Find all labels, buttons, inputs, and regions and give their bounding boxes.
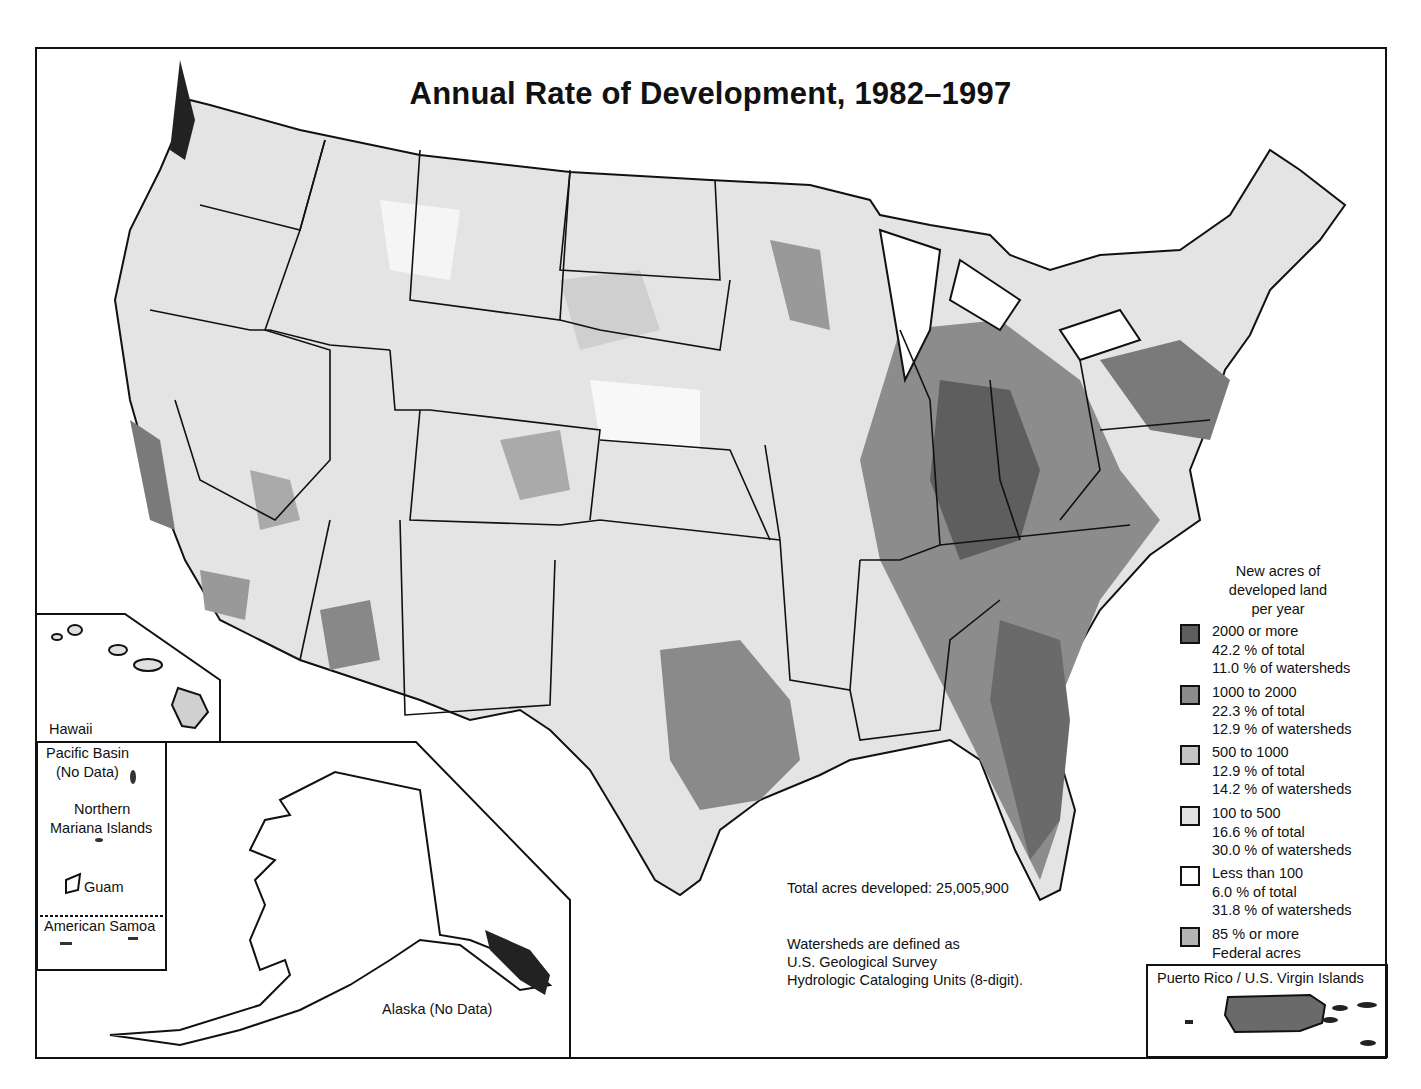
watersheds-note-1: Watersheds are defined as [787, 935, 960, 953]
legend-range: 500 to 1000 [1212, 743, 1351, 762]
legend-swatch [1180, 745, 1200, 765]
puerto-rico-island [1225, 995, 1325, 1032]
alaska-label: Alaska (No Data) [382, 1000, 492, 1018]
pacific-basin-label: Pacific Basin [46, 744, 129, 762]
legend-pct-total: 42.2 % of total [1212, 641, 1350, 660]
legend-pct-total: 16.6 % of total [1212, 823, 1351, 842]
puerto-rico-label: Puerto Rico / U.S. Virgin Islands [1157, 969, 1364, 987]
legend-title: New acres of developed land per year [1218, 562, 1338, 619]
legend-pct-watersheds: 12.9 % of watersheds [1212, 720, 1351, 739]
legend-pct-watersheds: 14.2 % of watersheds [1212, 780, 1351, 799]
legend-item-100-500: 100 to 500 16.6 % of total 30.0 % of wat… [1180, 804, 1351, 860]
legend-swatch [1180, 685, 1200, 705]
legend-title-line: developed land [1218, 581, 1338, 600]
legend-pct-watersheds: 11.0 % of watersheds [1212, 659, 1350, 678]
legend-item-federal: 85 % or more Federal acres [1180, 925, 1301, 962]
legend-pct-watersheds: 30.0 % of watersheds [1212, 841, 1351, 860]
legend-range: 1000 to 2000 [1212, 683, 1351, 702]
legend-title-line: per year [1218, 600, 1338, 619]
legend-pct-total: 6.0 % of total [1212, 883, 1351, 902]
legend-range: 100 to 500 [1212, 804, 1351, 823]
northern-mariana-label-2: Mariana Islands [50, 819, 152, 837]
legend-item-500-1000: 500 to 1000 12.9 % of total 14.2 % of wa… [1180, 743, 1351, 799]
legend-swatch [1180, 624, 1200, 644]
watersheds-note-3: Hydrologic Cataloging Units (8-digit). [787, 971, 1023, 989]
pacific-basin-nodata-label: (No Data) [56, 763, 119, 781]
legend-swatch [1180, 806, 1200, 826]
hawaii-islands [52, 625, 208, 728]
legend-range: Less than 100 [1212, 864, 1351, 883]
legend-federal-label: Federal acres [1212, 944, 1301, 963]
legend-swatch [1180, 927, 1200, 947]
legend-swatch [1180, 866, 1200, 886]
hawaii-label: Hawaii [49, 720, 93, 738]
legend-title-line: New acres of [1218, 562, 1338, 581]
legend-item-2000-plus: 2000 or more 42.2 % of total 11.0 % of w… [1180, 622, 1350, 678]
legend-pct-total: 22.3 % of total [1212, 702, 1351, 721]
legend-item-less-than-100: Less than 100 6.0 % of total 31.8 % of w… [1180, 864, 1351, 920]
total-acres-note: Total acres developed: 25,005,900 [787, 879, 1009, 897]
legend-pct-total: 12.9 % of total [1212, 762, 1351, 781]
guam-label: Guam [84, 878, 124, 896]
legend-range: 2000 or more [1212, 622, 1350, 641]
legend-range: 85 % or more [1212, 925, 1301, 944]
watersheds-note-2: U.S. Geological Survey [787, 953, 937, 971]
legend-item-1000-2000: 1000 to 2000 22.3 % of total 12.9 % of w… [1180, 683, 1351, 739]
american-samoa-label: American Samoa [44, 917, 155, 935]
legend-pct-watersheds: 31.8 % of watersheds [1212, 901, 1351, 920]
northern-mariana-label-1: Northern [74, 800, 130, 818]
